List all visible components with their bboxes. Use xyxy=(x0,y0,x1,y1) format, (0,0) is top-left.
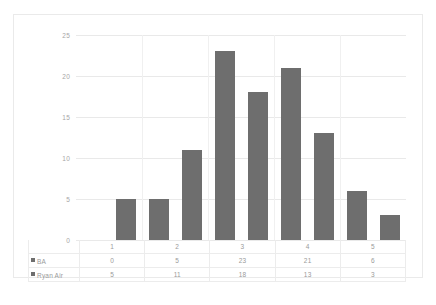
bar-ryanair-4[interactable] xyxy=(314,133,334,240)
bar-slot-ba xyxy=(340,35,373,240)
cell-ryanair-2: 11 xyxy=(145,268,210,282)
bar-slot-ba xyxy=(274,35,307,240)
table-row: Ryan Air 5 11 18 13 3 xyxy=(29,268,406,282)
cell-ba-1: 0 xyxy=(80,254,145,268)
table-corner-cell xyxy=(29,240,80,254)
legend-swatch-icon xyxy=(31,258,35,262)
bar-ryanair-3[interactable] xyxy=(248,92,268,240)
plot-wrap: 25 20 15 10 5 0 xyxy=(14,15,422,277)
bar-group-4 xyxy=(274,35,340,240)
legend-label-ryanair: Ryan Air xyxy=(37,271,63,278)
legend-item-ba: BA xyxy=(29,254,80,268)
bar-ryanair-5[interactable] xyxy=(380,215,400,240)
bar-group-3 xyxy=(208,35,274,240)
legend-item-ryanair: Ryan Air xyxy=(29,268,80,282)
chart-frame: 25 20 15 10 5 0 xyxy=(13,14,423,278)
bar-slot-ba xyxy=(76,35,109,240)
y-tick-label-10: 10 xyxy=(62,155,70,162)
bar-ryanair-1[interactable] xyxy=(116,199,136,240)
cell-ba-5: 6 xyxy=(340,254,405,268)
cell-ryanair-3: 18 xyxy=(210,268,275,282)
cell-ba-4: 21 xyxy=(275,254,340,268)
bar-slot-ryanair xyxy=(373,35,406,240)
cell-ryanair-5: 3 xyxy=(340,268,405,282)
bar-ba-4[interactable] xyxy=(281,68,301,240)
cell-ba-2: 5 xyxy=(145,254,210,268)
bars-layer xyxy=(76,35,406,240)
bar-slot-ba xyxy=(208,35,241,240)
bar-group-5 xyxy=(340,35,406,240)
table-row: BA 0 5 23 21 6 xyxy=(29,254,406,268)
cell-ryanair-4: 13 xyxy=(275,268,340,282)
table-row-categories: 1 2 3 4 5 xyxy=(29,240,406,254)
category-label-3: 3 xyxy=(210,240,275,254)
legend-label-ba: BA xyxy=(37,257,46,264)
bar-group-2 xyxy=(142,35,208,240)
legend-swatch-icon xyxy=(31,272,35,276)
y-tick-label-5: 5 xyxy=(66,196,70,203)
category-label-4: 4 xyxy=(275,240,340,254)
bar-ba-5[interactable] xyxy=(347,191,367,240)
bar-ryanair-2[interactable] xyxy=(182,150,202,240)
chart-data-table: 1 2 3 4 5 BA 0 5 23 21 6 Ryan Air 5 11 1… xyxy=(28,240,406,282)
cell-ba-3: 23 xyxy=(210,254,275,268)
bar-slot-ryanair xyxy=(241,35,274,240)
bar-slot-ryanair xyxy=(307,35,340,240)
bar-slot-ba xyxy=(142,35,175,240)
bar-slot-ryanair xyxy=(175,35,208,240)
bar-slot-ryanair xyxy=(109,35,142,240)
category-label-2: 2 xyxy=(145,240,210,254)
y-tick-label-20: 20 xyxy=(62,73,70,80)
category-label-5: 5 xyxy=(340,240,405,254)
cell-ryanair-1: 5 xyxy=(80,268,145,282)
category-label-1: 1 xyxy=(80,240,145,254)
bar-group-1 xyxy=(76,35,142,240)
y-tick-label-25: 25 xyxy=(62,32,70,39)
bar-ba-2[interactable] xyxy=(149,199,169,240)
bar-ba-3[interactable] xyxy=(215,51,235,240)
y-tick-label-15: 15 xyxy=(62,114,70,121)
plot-area: 25 20 15 10 5 0 xyxy=(76,35,406,240)
